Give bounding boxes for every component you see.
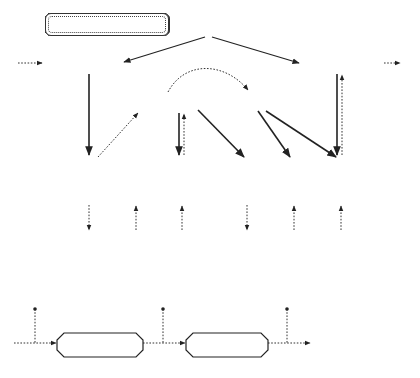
edge-master-to-output — [212, 37, 299, 63]
master-control-case — [45, 13, 169, 36]
edge-master-to-input — [124, 37, 205, 62]
edge-circshift-to-shifted-insert — [198, 110, 244, 157]
diagram-connectors — [0, 0, 420, 378]
edge-alpha-to-shifted-delete — [258, 111, 290, 157]
filter-circular-shift-shape — [57, 333, 143, 357]
filter-alphabetizer-shape — [186, 333, 268, 357]
edge-alpha-to-shifted-ith — [266, 111, 336, 157]
